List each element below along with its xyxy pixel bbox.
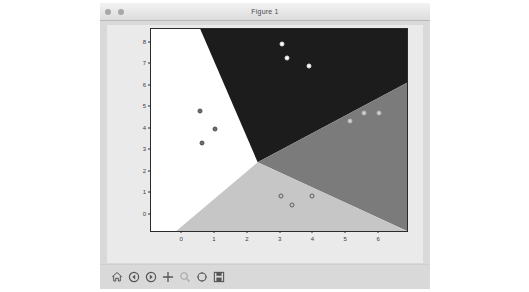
x-axis-tick-label: 6 [376,232,379,242]
scatter-point [377,110,382,115]
subplot-config-icon[interactable] [195,270,209,284]
x-axis-tick-label: 3 [278,232,281,242]
scatter-point [306,63,311,68]
figure-window: Figure 1 0123456780123456 [100,3,430,289]
forward-arrow-icon[interactable] [144,270,158,284]
scatter-point [362,110,367,115]
scatter-point [285,56,290,61]
x-axis-tick-label: 2 [245,232,248,242]
y-axis-tick-mark [148,106,150,107]
scatter-point [347,119,352,124]
scatter-point [199,140,204,145]
matplotlib-toolbar [100,264,430,289]
scatter-point [290,203,295,208]
minimize-button[interactable] [118,9,124,15]
x-axis-tick-mark [312,231,313,233]
y-axis-tick-mark [148,41,150,42]
close-button[interactable] [105,9,111,15]
y-axis-tick-mark [148,84,150,85]
zoom-rect-icon [178,270,192,284]
y-axis-tick-mark [148,213,150,214]
decision-regions [151,29,407,231]
plot-axes [150,28,408,232]
y-axis-tick-mark [148,192,150,193]
y-axis-tick-mark [148,149,150,150]
x-axis-tick-label: 0 [180,232,183,242]
x-axis-tick-mark [345,231,346,233]
y-axis-tick-mark [148,63,150,64]
back-arrow-icon[interactable] [127,270,141,284]
x-axis-tick-mark [279,231,280,233]
x-axis-tick-mark [214,231,215,233]
scatter-point [309,193,314,198]
figure-body: 0123456780123456 [100,21,430,264]
x-axis-tick-label: 1 [212,232,215,242]
save-disk-icon[interactable] [212,270,226,284]
pan-move-icon[interactable] [161,270,175,284]
window-titlebar: Figure 1 [100,3,430,21]
scatter-point [198,108,203,113]
x-axis-tick-mark [246,231,247,233]
scatter-point [278,193,283,198]
y-axis-tick-mark [148,127,150,128]
y-axis-tick-mark [148,170,150,171]
x-axis-tick-mark [378,231,379,233]
x-axis-tick-label: 4 [311,232,314,242]
scatter-point [280,42,285,47]
figure-canvas: 0123456780123456 [107,25,423,263]
home-icon[interactable] [110,270,124,284]
x-axis-tick-mark [181,231,182,233]
window-title: Figure 1 [100,8,430,15]
window-controls [105,3,124,20]
scatter-point [213,126,218,131]
x-axis-tick-label: 5 [344,232,347,242]
